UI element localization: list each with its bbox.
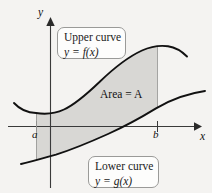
y-axis-arrow <box>46 17 54 26</box>
lower-callout-y-prefix: y = <box>95 175 114 187</box>
x-tick-label-a: a <box>32 128 38 140</box>
upper-callout-line1: Upper curve <box>64 31 119 45</box>
upper-curve-callout: Upper curve y = f(x) <box>57 27 126 59</box>
area-between-curves-figure: y x a b Area = A Upper curve y = f(x) Lo… <box>0 0 212 193</box>
x-tick-label-b: b <box>153 128 159 140</box>
shaded-area-region <box>36 46 157 160</box>
upper-callout-line2: y = f(x) <box>64 46 119 60</box>
lower-curve-callout: Lower curve y = g(x) <box>88 156 159 188</box>
lower-callout-arg: (x) <box>119 175 132 187</box>
area-annotation-label: Area = A <box>100 88 142 100</box>
lower-callout-line2: y = g(x) <box>95 175 152 189</box>
upper-callout-y-prefix: y = <box>64 46 83 58</box>
y-axis-label: y <box>38 6 43 18</box>
x-axis-label: x <box>200 130 205 142</box>
upper-callout-arg: (x) <box>86 46 99 58</box>
lower-callout-line1: Lower curve <box>95 160 152 174</box>
